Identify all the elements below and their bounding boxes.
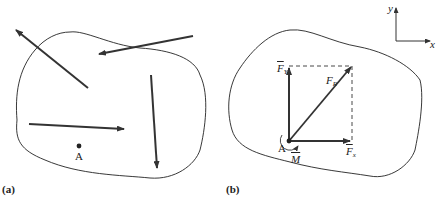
fr-arrow <box>289 67 351 141</box>
x-axis-label: x <box>430 39 435 50</box>
body-outline-b <box>229 30 422 177</box>
point-label-a: A <box>75 151 83 162</box>
force-arrow-a3 <box>151 75 157 168</box>
point-a-b <box>287 139 292 144</box>
force-arrow-a1 <box>16 30 88 88</box>
diagram-canvas <box>0 0 445 203</box>
fx-subscript: x <box>353 151 356 159</box>
y-axis-label: y <box>388 3 393 14</box>
fx-label: Fx <box>346 146 356 159</box>
fr-subscript: R <box>333 80 337 88</box>
fy-letter: F <box>277 62 284 74</box>
point-label-b: A <box>278 143 286 154</box>
caption-b: (b) <box>226 184 239 195</box>
fr-letter: F <box>326 74 333 86</box>
force-arrow-a2 <box>99 36 193 54</box>
moment-label: M <box>291 154 300 165</box>
fr-label: FR <box>326 75 337 88</box>
fy-label: FY <box>277 63 288 76</box>
point-a <box>77 144 82 149</box>
fy-subscript: Y <box>284 68 288 76</box>
fx-letter: F <box>346 145 353 157</box>
force-arrow-a4 <box>29 124 124 129</box>
caption-a: (a) <box>2 184 15 195</box>
